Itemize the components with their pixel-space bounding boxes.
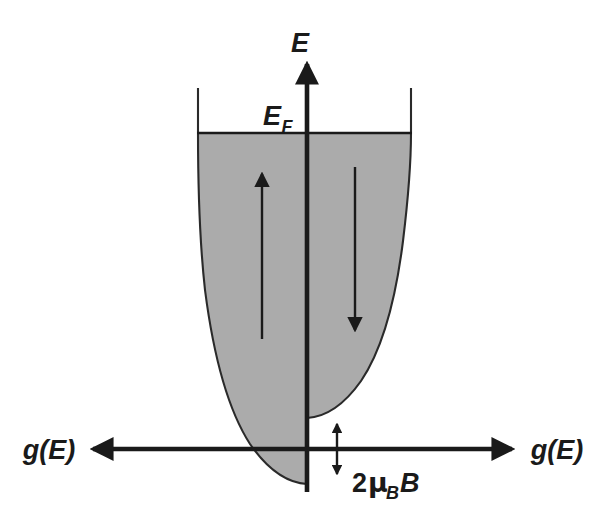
zeeman-splitting-prefix: 2 [352, 468, 367, 498]
pauli-paramagnetism-figure: E E F g(E) g(E) 2 μ B B [0, 0, 593, 510]
spin-down-band-region [307, 133, 411, 418]
spin-up-band-region [198, 133, 307, 484]
fermi-level-subscript: F [282, 117, 294, 137]
magnetic-field-symbol: B [400, 468, 420, 498]
density-axis-label-right: g(E) [530, 435, 583, 465]
zeeman-splitting-label-group: 2 μ B B [352, 467, 420, 503]
bohr-magneton-symbol: μ [368, 467, 388, 498]
bohr-magneton-subscript: B [386, 483, 399, 503]
fermi-level-label-group: E F [263, 101, 294, 137]
energy-axis-label: E [291, 28, 310, 58]
density-axis-label-left: g(E) [22, 435, 75, 465]
fermi-level-label: E [263, 101, 282, 131]
